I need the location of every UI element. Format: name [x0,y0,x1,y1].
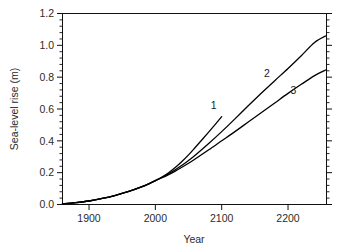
y-tick-label-0.2: 0.2 [39,166,54,178]
curve-label-2: 2 [264,67,270,79]
curve-label-3: 3 [290,84,296,96]
y-tick-label-0.6: 0.6 [39,103,54,115]
x-tick-label-2000: 2000 [144,212,168,224]
x-tick-label-2100: 2100 [210,212,234,224]
y-tick-label-1.0: 1.0 [39,39,54,51]
x-tick-label-1900: 1900 [77,212,101,224]
y-tick-label-0.0: 0.0 [39,198,54,210]
x-axis-title: Year [183,233,205,245]
chart-background [0,0,353,251]
sea-level-rise-chart: 0.00.20.40.60.81.01.2 1900200021002200 1… [0,0,353,251]
y-tick-label-0.8: 0.8 [39,71,54,83]
curve-label-1: 1 [211,99,217,111]
y-tick-label-1.2: 1.2 [39,7,54,19]
x-tick-label-2200: 2200 [276,212,300,224]
y-tick-label-0.4: 0.4 [39,135,54,147]
chart-canvas: 0.00.20.40.60.81.01.2 1900200021002200 1… [0,0,353,251]
y-axis-title: Sea-level rise (m) [8,68,20,150]
